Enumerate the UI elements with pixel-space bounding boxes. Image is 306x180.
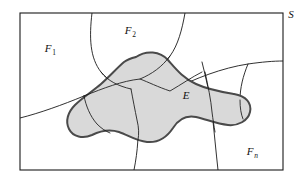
label-F2-subscript: 2: [132, 30, 136, 39]
label-Fn-base: F: [246, 145, 254, 157]
partition-diagram: F 1 F 2 E F n S: [0, 0, 306, 180]
label-Fn-subscript: n: [254, 151, 258, 160]
label-E: E: [182, 89, 190, 101]
label-F1-subscript: 1: [52, 48, 56, 57]
label-F1-base: F: [44, 42, 52, 54]
label-E-base: E: [182, 89, 190, 101]
label-F2-base: F: [124, 24, 132, 36]
label-S-base: S: [288, 8, 294, 20]
figure-container: F 1 F 2 E F n S: [0, 0, 306, 180]
label-S: S: [288, 8, 294, 20]
